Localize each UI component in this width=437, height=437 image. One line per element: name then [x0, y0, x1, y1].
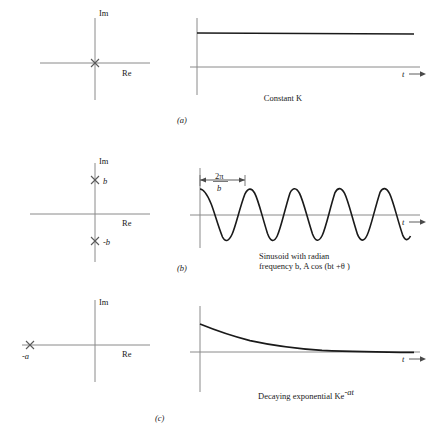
splane-c-pole-real-label: -a: [22, 351, 29, 361]
response-c-curve-exponential: [200, 324, 414, 352]
subfig-label-a: (a): [177, 115, 187, 125]
response-a-curve-constant: [197, 33, 414, 34]
response-c-caption-text: Decaying exponential Ke: [258, 391, 345, 401]
row-b-response: 2π b t Sinusoid with radian frequency b,…: [190, 168, 426, 271]
splane-a-re-label: Re: [122, 68, 132, 78]
subfig-label-b: (b): [177, 263, 187, 273]
response-b-caption-line1: Sinusoid with radian: [259, 251, 330, 261]
response-a-t-label: t: [402, 69, 405, 79]
splane-c-re-label: Re: [122, 349, 132, 359]
response-a-caption: Constant K: [264, 93, 303, 103]
response-b-caption-line2: frequency b, A cos (bt +θ ): [259, 261, 350, 271]
splane-b-re-label: Re: [122, 218, 132, 228]
response-c-caption-line1: Decaying exponential Ke-at: [258, 387, 354, 401]
response-b-period-marker: 2π b: [200, 171, 245, 193]
splane-c-im-label: Im: [99, 297, 109, 307]
response-c-caption-exponent: -at: [344, 387, 354, 397]
response-b-t-label: t: [402, 217, 405, 227]
response-c-t-arrow: [409, 356, 426, 362]
pole-response-figure: Im Re t Constant K (a) Im Re: [0, 0, 437, 437]
response-b-period-denominator: b: [217, 183, 221, 193]
splane-a-im-label: Im: [99, 8, 109, 18]
row-c-response: t Decaying exponential Ke-at: [190, 306, 426, 401]
row-a-response: t Constant K: [190, 18, 426, 103]
response-a-t-arrow: [409, 71, 426, 77]
row-c-splane: Im Re -a: [22, 297, 150, 382]
row-a-splane: Im Re: [40, 8, 150, 100]
splane-b-pole-negative-label: -b: [103, 237, 110, 247]
response-b-t-arrow: [409, 219, 426, 225]
splane-b-pole-positive-label: b: [103, 176, 107, 186]
subfig-label-c: (c): [155, 413, 165, 423]
row-b-splane: Im Re b -b: [30, 156, 150, 262]
response-c-t-label: t: [402, 354, 405, 364]
response-b-period-numerator: 2π: [215, 171, 224, 181]
splane-b-im-label: Im: [99, 156, 109, 166]
